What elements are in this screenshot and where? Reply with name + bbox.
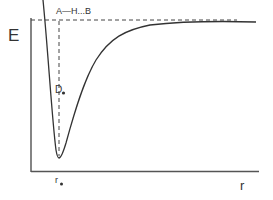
well-depth-subscript-dot: [62, 91, 65, 94]
dissociation-label: A—H...B: [56, 6, 91, 16]
equilibrium-subscript-dot: [60, 183, 63, 186]
equilibrium-label: r: [55, 175, 63, 186]
svg-text:r: r: [55, 175, 58, 185]
x-axis-label: r: [240, 178, 245, 193]
well-depth-label: D: [55, 84, 65, 95]
svg-text:D: D: [55, 84, 62, 95]
y-axis-label: E: [8, 26, 19, 45]
potential-energy-diagram: E A—H...B D r r: [0, 0, 273, 200]
potential-curve: [43, 0, 256, 158]
